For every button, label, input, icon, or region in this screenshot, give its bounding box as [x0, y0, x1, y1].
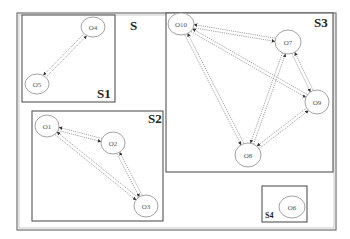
node-o8: O8	[235, 143, 261, 167]
node-o9: O9	[305, 90, 329, 114]
group-label: S2	[148, 111, 162, 126]
node-label: O8	[244, 152, 253, 160]
node-label: O6	[288, 204, 297, 212]
group-label: S3	[314, 15, 328, 30]
node-label: O5	[33, 81, 42, 89]
node-o7: O7	[275, 30, 301, 54]
node-o6: O6	[279, 196, 305, 218]
node-o10: O10	[168, 13, 194, 35]
node-o4: O4	[81, 17, 105, 37]
node-o2: O2	[101, 132, 125, 154]
node-label: O4	[89, 24, 98, 32]
group-label: S4	[265, 211, 273, 220]
node-label: O10	[175, 21, 188, 29]
node-label: O9	[313, 99, 322, 107]
node-label: O7	[284, 39, 293, 47]
group-label: S1	[97, 86, 111, 101]
node-o5: O5	[25, 74, 49, 94]
node-o3: O3	[134, 195, 158, 217]
node-label: O3	[142, 203, 151, 211]
node-o1: O1	[35, 115, 59, 137]
node-label: O2	[109, 140, 118, 148]
node-label: O1	[43, 123, 52, 131]
outer-label: S	[130, 18, 137, 33]
state-diagram: S S1S2S3S4 O4O5O1O2O3O10O7O9O8O6	[0, 0, 350, 239]
